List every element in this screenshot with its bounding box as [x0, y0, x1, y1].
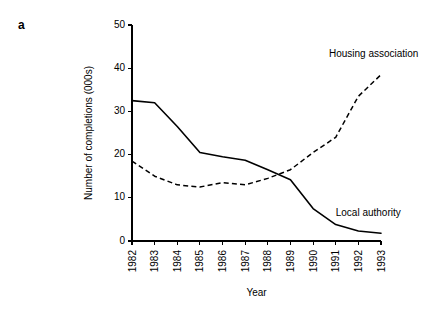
line-chart: 0102030405019821983198419851986198719881…	[0, 0, 445, 310]
series-annotation-local-authority: Local authority	[336, 207, 401, 218]
x-tick-label: 1982	[127, 250, 138, 273]
x-tick-label: 1988	[262, 250, 273, 273]
y-tick-label: 40	[114, 62, 126, 73]
x-tick-label: 1992	[353, 250, 364, 273]
x-tick-label: 1985	[194, 250, 205, 273]
x-tick-label: 1990	[308, 250, 319, 273]
x-tick-label: 1984	[172, 250, 183, 273]
figure-container: a 01020304050198219831984198519861987198…	[0, 0, 445, 310]
x-tick-label: 1989	[285, 250, 296, 273]
x-tick-label: 1987	[240, 250, 251, 273]
x-tick-label: 1986	[217, 250, 228, 273]
x-tick-label: 1983	[149, 250, 160, 273]
y-tick-label: 20	[114, 148, 126, 159]
series-line-housing-association	[132, 75, 381, 187]
y-axis-title: Number of completions (000s)	[83, 66, 94, 200]
x-tick-label: 1993	[376, 250, 387, 273]
y-tick-label: 50	[114, 19, 126, 30]
series-annotation-housing-association: Housing association	[329, 48, 419, 59]
x-axis-title: Year	[246, 287, 267, 298]
y-tick-label: 10	[114, 191, 126, 202]
y-tick-label: 30	[114, 105, 126, 116]
y-tick-label: 0	[119, 235, 125, 246]
x-tick-label: 1991	[330, 250, 341, 273]
